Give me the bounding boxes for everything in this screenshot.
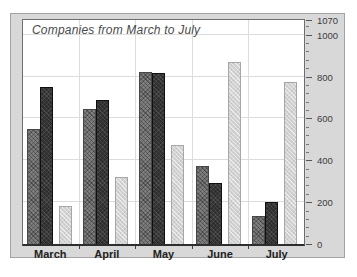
y-minor-tick-160 xyxy=(306,211,309,212)
x-label-april: April xyxy=(79,248,136,260)
plot-area xyxy=(22,19,305,246)
category-group-may xyxy=(135,20,191,244)
y-label-400: 400 xyxy=(317,155,333,166)
bar-april-series-1 xyxy=(83,109,96,244)
y-minor-tick-760 xyxy=(306,85,309,86)
bar-april-series-3 xyxy=(115,177,128,244)
bar-march-series-3 xyxy=(59,206,72,244)
category-group-april xyxy=(79,20,135,244)
y-minor-tick-280 xyxy=(306,185,309,186)
x-axis-labels: MarchAprilMayJuneJuly xyxy=(22,248,305,260)
y-minor-tick-840 xyxy=(306,68,309,69)
y-minor-tick-560 xyxy=(306,127,309,128)
y-label-800: 800 xyxy=(317,71,333,82)
y-tick-600 xyxy=(306,118,312,119)
plot-inner xyxy=(23,20,304,244)
y-minor-tick-960 xyxy=(306,43,309,44)
bar-april-series-2 xyxy=(96,100,109,244)
category-group-june xyxy=(192,20,248,244)
y-minor-tick-520 xyxy=(306,135,309,136)
y-label-600: 600 xyxy=(317,113,333,124)
bar-may-series-1 xyxy=(139,72,152,244)
y-minor-tick-680 xyxy=(306,102,309,103)
bar-june-series-1 xyxy=(196,166,209,245)
y-label-1000: 1000 xyxy=(317,29,338,40)
bar-july-series-3 xyxy=(284,82,297,244)
bar-june-series-2 xyxy=(209,183,222,244)
y-minor-tick-920 xyxy=(306,51,309,52)
y-minor-tick-240 xyxy=(306,194,309,195)
x-label-march: March xyxy=(22,248,79,260)
y-label-200: 200 xyxy=(317,197,333,208)
y-minor-tick-480 xyxy=(306,144,309,145)
x-label-june: June xyxy=(192,248,249,260)
y-minor-tick-440 xyxy=(306,152,309,153)
chart-screenshot: Companies from March to July 02004006008… xyxy=(0,0,357,277)
y-minor-tick-320 xyxy=(306,177,309,178)
y-minor-tick-720 xyxy=(306,93,309,94)
bar-march-series-1 xyxy=(27,129,40,244)
x-boundary-tick-3 xyxy=(192,246,193,249)
y-tick-200 xyxy=(306,202,312,203)
y-tick-1070 xyxy=(306,20,312,21)
bar-march-series-2 xyxy=(40,87,53,244)
category-group-july xyxy=(248,20,304,244)
y-tick-800 xyxy=(306,77,312,78)
x-label-july: July xyxy=(248,248,305,260)
bars-layer xyxy=(23,20,304,244)
y-minor-tick-120 xyxy=(306,219,309,220)
y-minor-tick-40 xyxy=(306,236,309,237)
x-boundary-tick-1 xyxy=(79,246,80,249)
y-axis: 020040060080010001070 xyxy=(305,19,355,246)
y-minor-tick-360 xyxy=(306,169,309,170)
chart-title: Companies from March to July xyxy=(32,23,200,37)
x-label-may: May xyxy=(135,248,192,260)
y-tick-0 xyxy=(306,244,312,245)
y-minor-tick-80 xyxy=(306,227,309,228)
bar-may-series-3 xyxy=(171,145,184,244)
y-minor-tick-640 xyxy=(306,110,309,111)
bar-may-series-2 xyxy=(152,73,165,244)
bar-june-series-3 xyxy=(228,62,241,244)
y-minor-tick-880 xyxy=(306,60,309,61)
y-label-0: 0 xyxy=(317,239,322,250)
y-tick-1000 xyxy=(306,35,312,36)
y-tick-400 xyxy=(306,160,312,161)
category-group-march xyxy=(23,20,79,244)
x-boundary-tick-4 xyxy=(248,246,249,249)
bar-july-series-1 xyxy=(252,216,265,244)
x-boundary-tick-2 xyxy=(135,246,136,249)
bar-july-series-2 xyxy=(265,202,278,244)
y-minor-tick-1040 xyxy=(306,26,309,27)
y-label-1070: 1070 xyxy=(317,15,338,26)
